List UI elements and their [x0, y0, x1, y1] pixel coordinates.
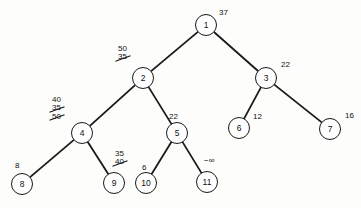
key-value: 37 [218, 9, 229, 17]
node-key-annotation-4: 403550 [51, 96, 62, 121]
node-key-annotation-3: 22 [280, 61, 291, 69]
tree-edge [152, 142, 171, 173]
tree-node-2[interactable]: 2 [132, 67, 154, 89]
key-value-struck: 50 [51, 113, 62, 121]
tree-node-3[interactable]: 3 [255, 67, 277, 89]
key-value: 8 [14, 162, 20, 170]
node-key-annotation-1: 37 [218, 9, 229, 17]
tree-edge [30, 140, 73, 177]
node-key-annotation-8: 8 [14, 162, 20, 170]
node-key-annotation-5: 22 [168, 113, 179, 121]
tree-edge [90, 85, 135, 125]
tree-node-8[interactable]: 8 [11, 173, 33, 195]
key-value-struck: 40 [114, 158, 125, 166]
key-value: 22 [168, 113, 179, 121]
key-value: 6 [141, 164, 147, 172]
key-value: 12 [252, 113, 263, 121]
tree-diagram-figure: 123456789101137503522403550221216835406−… [0, 0, 361, 208]
key-value-struck: 35 [117, 53, 128, 61]
tree-node-5[interactable]: 5 [166, 122, 188, 144]
tree-edge [88, 142, 108, 173]
key-value: −∞ [203, 157, 215, 165]
node-key-annotation-6: 12 [252, 113, 263, 121]
tree-node-7[interactable]: 7 [319, 118, 341, 140]
node-key-annotation-7: 16 [344, 112, 355, 120]
node-key-annotation-11: −∞ [203, 157, 215, 165]
tree-edge [183, 142, 202, 172]
tree-edge [214, 32, 258, 70]
tree-node-4[interactable]: 4 [71, 122, 93, 144]
tree-node-10[interactable]: 10 [135, 172, 157, 194]
tree-node-1[interactable]: 1 [195, 14, 217, 36]
tree-node-6[interactable]: 6 [228, 117, 250, 139]
key-value: 16 [344, 112, 355, 120]
node-key-annotation-10: 6 [141, 164, 147, 172]
key-value: 22 [280, 61, 291, 69]
tree-node-9[interactable]: 9 [103, 172, 125, 194]
node-key-annotation-9: 3540 [114, 150, 125, 167]
tree-node-11[interactable]: 11 [196, 171, 218, 193]
tree-edge [151, 32, 197, 71]
node-key-annotation-2: 5035 [117, 45, 128, 62]
tree-edge [275, 85, 322, 122]
